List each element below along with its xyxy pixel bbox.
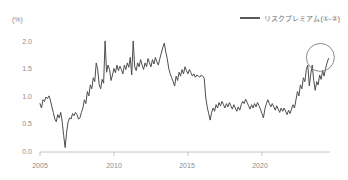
- highlight-circle-annotation: [306, 43, 334, 71]
- series-line-risk-premium: [40, 41, 329, 148]
- x-axis-tick-marks: [40, 152, 262, 156]
- plot-canvas: [0, 0, 348, 180]
- risk-premium-chart: (%) 2.0 1.5 1.0 0.5 0.0 2005 2010 2015 2…: [0, 0, 348, 180]
